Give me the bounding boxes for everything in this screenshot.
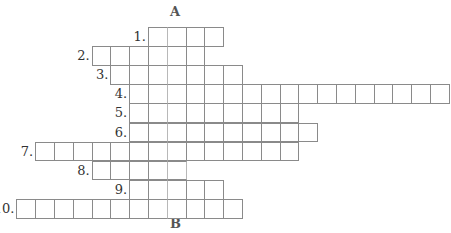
answer-cell[interactable]	[92, 199, 112, 219]
answer-cell[interactable]	[148, 199, 168, 219]
answer-cell[interactable]	[148, 46, 168, 66]
answer-cell[interactable]	[129, 161, 149, 181]
answer-cell[interactable]	[73, 142, 93, 162]
answer-cell[interactable]	[148, 142, 168, 162]
key-cell[interactable]	[167, 180, 187, 200]
answer-cell[interactable]	[186, 180, 206, 200]
answer-cell[interactable]	[298, 84, 318, 104]
answer-cell[interactable]	[186, 103, 206, 123]
answer-cell[interactable]	[223, 199, 243, 219]
answer-cell[interactable]	[204, 65, 224, 85]
answer-cell[interactable]	[261, 84, 281, 104]
answer-cell[interactable]	[204, 103, 224, 123]
answer-cell[interactable]	[110, 46, 130, 66]
answer-cell[interactable]	[223, 123, 243, 143]
key-cell[interactable]	[167, 103, 187, 123]
key-cell[interactable]	[167, 123, 187, 143]
answer-cell[interactable]	[317, 84, 337, 104]
answer-cell[interactable]	[186, 142, 206, 162]
answer-cell[interactable]	[148, 65, 168, 85]
answer-cell[interactable]	[336, 84, 356, 104]
answer-cell[interactable]	[129, 65, 149, 85]
column-label-top: A	[170, 4, 180, 19]
clue-number: 4.	[101, 84, 127, 103]
answer-cell[interactable]	[186, 123, 206, 143]
key-cell[interactable]	[167, 199, 187, 219]
answer-cell[interactable]	[148, 84, 168, 104]
answer-cell[interactable]	[242, 142, 262, 162]
key-cell[interactable]	[167, 161, 187, 181]
answer-cell[interactable]	[204, 84, 224, 104]
answer-cell[interactable]	[148, 180, 168, 200]
crossword-grid: A B 1.2.3.4.5.6.7.8.9.10.	[0, 0, 451, 233]
clue-number: 8.	[64, 161, 90, 180]
answer-cell[interactable]	[411, 84, 431, 104]
answer-cell[interactable]	[355, 84, 375, 104]
clue-number: 9.	[101, 180, 127, 199]
answer-cell[interactable]	[298, 123, 318, 143]
clue-number: 10.	[0, 199, 14, 218]
answer-cell[interactable]	[129, 84, 149, 104]
answer-cell[interactable]	[186, 199, 206, 219]
answer-cell[interactable]	[223, 84, 243, 104]
answer-cell[interactable]	[204, 27, 224, 47]
answer-cell[interactable]	[35, 142, 55, 162]
answer-cell[interactable]	[16, 199, 36, 219]
answer-cell[interactable]	[148, 123, 168, 143]
answer-cell[interactable]	[204, 123, 224, 143]
answer-cell[interactable]	[204, 142, 224, 162]
answer-cell[interactable]	[148, 161, 168, 181]
answer-cell[interactable]	[54, 142, 74, 162]
answer-cell[interactable]	[204, 199, 224, 219]
answer-cell[interactable]	[430, 84, 450, 104]
answer-cell[interactable]	[129, 199, 149, 219]
answer-cell[interactable]	[129, 142, 149, 162]
answer-cell[interactable]	[186, 46, 206, 66]
answer-cell[interactable]	[242, 123, 262, 143]
clue-number: 6.	[101, 123, 127, 142]
answer-cell[interactable]	[242, 84, 262, 104]
answer-cell[interactable]	[186, 84, 206, 104]
clue-number: 2.	[64, 46, 90, 65]
answer-cell[interactable]	[280, 103, 300, 123]
answer-cell[interactable]	[110, 199, 130, 219]
answer-cell[interactable]	[280, 84, 300, 104]
answer-cell[interactable]	[92, 161, 112, 181]
answer-cell[interactable]	[242, 103, 262, 123]
answer-cell[interactable]	[223, 142, 243, 162]
answer-cell[interactable]	[129, 180, 149, 200]
clue-number: 7.	[7, 142, 33, 161]
answer-cell[interactable]	[92, 46, 112, 66]
key-cell[interactable]	[167, 84, 187, 104]
answer-cell[interactable]	[73, 199, 93, 219]
clue-number: 1.	[120, 27, 146, 46]
answer-cell[interactable]	[129, 46, 149, 66]
answer-cell[interactable]	[280, 142, 300, 162]
answer-cell[interactable]	[204, 180, 224, 200]
answer-cell[interactable]	[280, 123, 300, 143]
answer-cell[interactable]	[223, 103, 243, 123]
key-cell[interactable]	[167, 27, 187, 47]
answer-cell[interactable]	[110, 142, 130, 162]
answer-cell[interactable]	[54, 199, 74, 219]
answer-cell[interactable]	[186, 65, 206, 85]
answer-cell[interactable]	[261, 103, 281, 123]
answer-cell[interactable]	[374, 84, 394, 104]
answer-cell[interactable]	[261, 142, 281, 162]
answer-cell[interactable]	[392, 84, 412, 104]
answer-cell[interactable]	[129, 103, 149, 123]
answer-cell[interactable]	[110, 65, 130, 85]
clue-number: 5.	[101, 103, 127, 122]
answer-cell[interactable]	[148, 27, 168, 47]
answer-cell[interactable]	[35, 199, 55, 219]
answer-cell[interactable]	[92, 142, 112, 162]
key-cell[interactable]	[167, 142, 187, 162]
answer-cell[interactable]	[223, 65, 243, 85]
answer-cell[interactable]	[148, 103, 168, 123]
key-cell[interactable]	[167, 46, 187, 66]
answer-cell[interactable]	[129, 123, 149, 143]
answer-cell[interactable]	[186, 27, 206, 47]
answer-cell[interactable]	[110, 161, 130, 181]
answer-cell[interactable]	[261, 123, 281, 143]
key-cell[interactable]	[167, 65, 187, 85]
